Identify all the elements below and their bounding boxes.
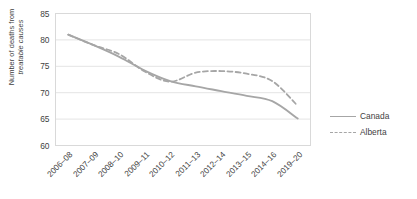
y-axis-title-plain: Number of deaths from	[7, 9, 16, 86]
legend-swatch-alberta	[330, 127, 356, 137]
y-axis-tick-label: 85	[30, 9, 50, 19]
y-axis-tick-label: 80	[30, 35, 50, 45]
legend-label-canada: Canada	[360, 111, 389, 121]
legend-label-alberta: Alberta	[360, 127, 387, 137]
treatable-causes-line-chart: Number of deaths from treatable causes 6…	[0, 0, 417, 199]
gridlines	[56, 14, 311, 146]
y-axis-tick-label: 60	[30, 141, 50, 151]
legend: Canada Alberta	[330, 108, 389, 140]
series-line-alberta	[68, 35, 298, 106]
y-axis-tick-label: 70	[30, 88, 50, 98]
plot-border	[56, 14, 311, 146]
legend-item-canada: Canada	[330, 108, 389, 124]
legend-swatch-canada	[330, 111, 356, 121]
y-axis-title-italic: treatable causes	[16, 19, 25, 74]
y-axis-tick-label: 75	[30, 61, 50, 71]
y-axis-tick-label: 65	[30, 114, 50, 124]
y-axis-title: Number of deaths from treatable causes	[7, 0, 29, 117]
series-layer	[68, 35, 298, 119]
legend-item-alberta: Alberta	[330, 124, 389, 140]
